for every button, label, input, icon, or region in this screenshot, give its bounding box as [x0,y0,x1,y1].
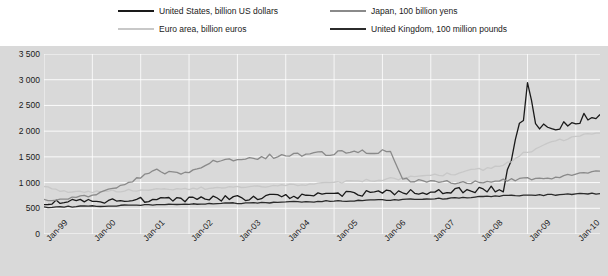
chart-svg [44,54,600,234]
y-tick-label: 0 [35,229,40,239]
x-axis-labels: Jan-99Jan-00Jan-01Jan-02Jan-03Jan-04Jan-… [44,236,600,276]
chart-canvas [44,54,600,234]
legend-item-japan: Japan, 100 billion yens [330,6,457,16]
legend-swatch-japan [330,10,366,13]
y-tick-label: 2 000 [19,126,40,136]
y-tick-label: 3 000 [19,75,40,85]
y-tick-label: 500 [26,203,40,213]
chart-legend: United States, billion US dollars Euro a… [0,0,608,46]
legend-label-euro-area: Euro area, billion euros [159,24,246,34]
y-tick-label: 2 500 [19,100,40,110]
y-tick-label: 1 500 [19,152,40,162]
chart-plot-region: 05001 0001 5002 0002 5003 0003 500 Jan-9… [0,46,608,276]
legend-label-japan: Japan, 100 billion yens [371,6,457,16]
y-tick-label: 1 000 [19,178,40,188]
y-axis-labels: 05001 0001 5002 0002 5003 0003 500 [0,46,44,276]
legend-label-united-kingdom: United Kingdom, 100 million pounds [371,24,507,34]
legend-item-euro-area: Euro area, billion euros [118,24,246,34]
legend-swatch-euro-area [118,28,154,31]
chart-page: United States, billion US dollars Euro a… [0,0,608,276]
legend-swatch-united-states [118,10,154,13]
y-tick-label: 3 500 [19,49,40,59]
legend-item-united-kingdom: United Kingdom, 100 million pounds [330,24,507,34]
legend-label-united-states: United States, billion US dollars [159,6,278,16]
legend-swatch-united-kingdom [330,28,366,31]
legend-item-united-states: United States, billion US dollars [118,6,278,16]
